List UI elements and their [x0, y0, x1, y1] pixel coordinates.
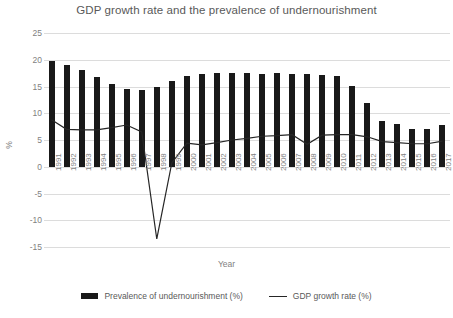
x-axis-tick-label: 1992	[70, 153, 78, 171]
legend-label-undernourishment: Prevalence of undernourishment (%)	[104, 291, 242, 301]
x-axis-tick-label: 2013	[385, 153, 393, 171]
y-axis-tick-label: -5	[12, 190, 42, 199]
y-axis-tick-label: 0	[12, 163, 42, 172]
x-axis-tick-label: 2002	[220, 153, 228, 171]
chart-legend: Prevalence of undernourishment (%) GDP g…	[0, 291, 453, 301]
x-axis-tick-label: 1998	[160, 153, 168, 171]
x-axis-tick-label: 2001	[205, 153, 213, 171]
gdp-growth-line	[52, 120, 443, 239]
y-axis-tick-label: 20	[12, 56, 42, 65]
x-axis-tick-label: 1996	[130, 153, 138, 171]
x-axis-tick-label: 1994	[100, 153, 108, 171]
chart-title: GDP growth rate and the prevalence of un…	[0, 4, 453, 16]
x-axis-tick-label: 2011	[355, 154, 363, 171]
bar-swatch-icon	[81, 293, 98, 299]
x-axis-tick-label: 2012	[370, 153, 378, 171]
x-axis-tick-label: 2008	[310, 153, 318, 171]
y-axis-tick-label: -15	[12, 243, 42, 252]
x-axis-tick-label: 2004	[250, 153, 258, 171]
y-axis-tick-label: 25	[12, 29, 42, 38]
x-axis-tick-label: 2003	[235, 153, 243, 171]
y-axis-tick-label: 5	[12, 136, 42, 145]
x-axis-tick-label: 2007	[295, 153, 303, 171]
y-axis-tick-label: 15	[12, 83, 42, 92]
x-axis-tick-label: 2005	[265, 153, 273, 171]
line-swatch-icon	[269, 296, 287, 297]
x-axis-tick-label: 2009	[325, 153, 333, 171]
gridline	[44, 247, 450, 248]
x-axis-tick-label: 2000	[190, 153, 198, 171]
legend-label-gdp-growth: GDP growth rate (%)	[293, 291, 372, 301]
x-axis-tick-label: 1991	[55, 153, 63, 171]
x-axis-tick-label: 2014	[400, 153, 408, 171]
x-axis-tick-label: 1997	[145, 153, 153, 171]
chart-container: GDP growth rate and the prevalence of un…	[0, 0, 453, 318]
x-axis-tick-label: 2015	[415, 153, 423, 171]
x-axis-title: Year	[0, 259, 453, 269]
x-axis-tick-label: 2016	[430, 153, 438, 171]
legend-item-undernourishment: Prevalence of undernourishment (%)	[81, 291, 242, 301]
x-axis-tick-label: 1995	[115, 153, 123, 171]
gdp-growth-line-series	[44, 33, 450, 247]
x-axis-tick-label: 1999	[175, 153, 183, 171]
x-axis-tick-label: 2017	[445, 153, 453, 171]
x-axis-tick-label: 1993	[85, 153, 93, 171]
x-axis-tick-label: 2006	[280, 153, 288, 171]
y-axis-title: %	[4, 130, 14, 160]
legend-item-gdp-growth: GDP growth rate (%)	[269, 291, 372, 301]
y-axis-tick-label: 10	[12, 109, 42, 118]
x-axis-tick-label: 2010	[340, 153, 348, 171]
y-axis-tick-label: -10	[12, 216, 42, 225]
